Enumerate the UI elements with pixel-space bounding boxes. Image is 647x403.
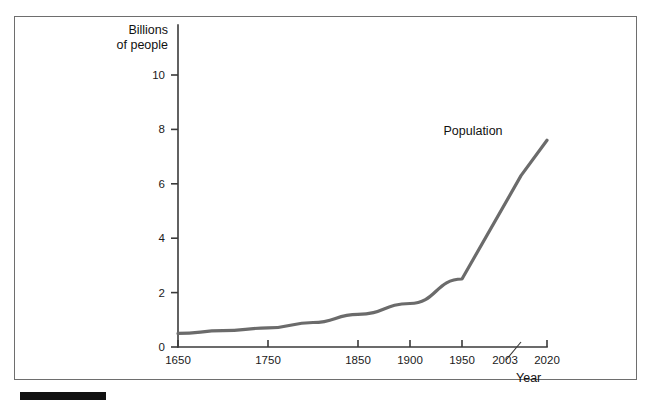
population-series-line [178,140,547,333]
x-tick-label-1850: 1850 [345,354,371,366]
x-tick-label-1650: 1650 [165,354,191,366]
y-axis-ticks [171,75,178,347]
population-line-chart: 0 2 4 6 8 10 Billions of people 1650 175… [0,0,647,403]
x-tick-label-2020: 2020 [534,354,560,366]
x-tick-label-1900: 1900 [397,354,423,366]
y-tick-label-0: 0 [159,341,165,353]
y-tick-label-4: 4 [159,232,166,244]
x-axis-ticks [178,340,547,347]
x-tick-label-1750: 1750 [255,354,281,366]
x-tick-label-2003: 2003 [492,354,518,366]
y-tick-label-2: 2 [159,287,165,299]
y-axis-title-line2: of people [117,38,168,52]
y-tick-label-8: 8 [159,123,165,135]
y-tick-label-6: 6 [159,178,165,190]
x-tick-label-1950: 1950 [449,354,475,366]
x-axis-title: Year [516,371,541,385]
chart-page: 0 2 4 6 8 10 Billions of people 1650 175… [0,0,647,403]
y-tick-label-10: 10 [152,69,165,81]
population-annotation-label: Population [443,124,502,138]
y-axis-title-line1: Billions [128,23,168,37]
bottom-black-rule [20,392,106,400]
